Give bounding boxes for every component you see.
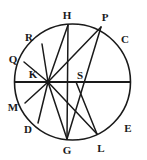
- geometry-figure: RHPCQKSMDGLE: [0, 0, 147, 160]
- chord-K-D: [38, 82, 48, 123]
- vertex-label-l: L: [97, 143, 104, 154]
- vertex-label-e: E: [124, 123, 131, 134]
- vertex-label-r: R: [25, 32, 33, 43]
- vertex-label-q: Q: [9, 54, 18, 65]
- vertex-label-h: H: [63, 10, 72, 21]
- geometry-canvas: [0, 0, 147, 160]
- chord-K-H: [48, 25, 68, 82]
- chord-K-G: [48, 82, 67, 139]
- vertex-label-s: S: [77, 70, 83, 81]
- hub-vertex-dot: [46, 80, 50, 84]
- vertex-label-c: C: [121, 34, 129, 45]
- chord-K-R: [42, 44, 48, 82]
- vertex-label-g: G: [63, 145, 72, 156]
- vertex-label-d: D: [24, 124, 32, 135]
- chord-K-L: [48, 82, 97, 134]
- vertex-label-m: M: [8, 102, 18, 113]
- vertex-label-p: P: [102, 12, 109, 23]
- vertex-label-k: K: [29, 69, 38, 80]
- chord-S-L: [76, 82, 97, 134]
- chord-K-M: [25, 82, 48, 103]
